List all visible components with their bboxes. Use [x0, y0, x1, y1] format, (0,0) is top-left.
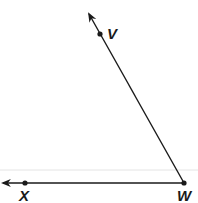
label-v: V [107, 25, 119, 42]
label-w: W [177, 187, 193, 203]
diagram-svg: V W X [0, 0, 198, 203]
ray-wv [89, 14, 184, 183]
point-v [97, 31, 102, 36]
angle-diagram: V W X [0, 0, 198, 203]
point-x [22, 180, 27, 185]
point-w [181, 180, 186, 185]
label-x: X [18, 187, 30, 203]
